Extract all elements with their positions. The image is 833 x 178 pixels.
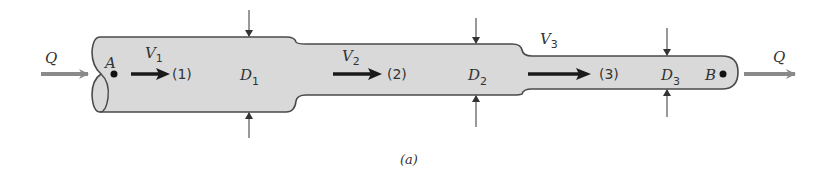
pipe-flow-diagram: Q Q A B V1 (1) D1 V2 (2) D2 V3 (3) D3 <box>0 0 833 178</box>
station-3-label: (3) <box>599 66 619 82</box>
point-b-dot <box>720 71 727 78</box>
station-2-label: (2) <box>387 66 407 82</box>
flow-in-label: Q <box>45 49 57 67</box>
point-b-label: B <box>704 66 716 84</box>
point-a-label: A <box>103 54 116 72</box>
point-a-dot <box>111 71 118 78</box>
figure-caption: (a) <box>400 152 418 167</box>
velocity-3-label: V3 <box>540 30 558 51</box>
station-1-label: (1) <box>172 66 192 82</box>
flow-out-label: Q <box>773 48 785 66</box>
